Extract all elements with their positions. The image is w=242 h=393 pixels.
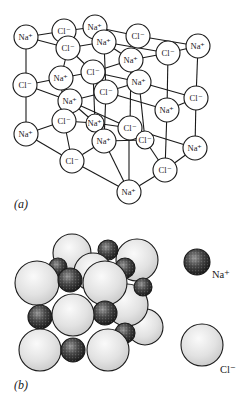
ion-legend: Na⁺Cl⁻ [181, 249, 236, 375]
ion-label: Cl⁻ [86, 67, 99, 77]
cl-ion: Cl⁻ [52, 109, 76, 133]
ion-label: Cl⁻ [18, 80, 31, 90]
ion-label: Na⁺ [188, 143, 203, 153]
ion-label: Cl⁻ [57, 116, 70, 126]
legend-label: Cl⁻ [220, 364, 236, 375]
na-ion: Na⁺ [119, 48, 143, 72]
na-sphere [28, 305, 52, 329]
cl-ion: Cl⁻ [60, 149, 84, 173]
ion-label: Na⁺ [191, 41, 206, 51]
na-ion: Na⁺ [92, 129, 116, 153]
cl-ion: Cl⁻ [126, 24, 150, 48]
ion-label: Cl⁻ [57, 26, 70, 36]
ion-label: Na⁺ [88, 118, 103, 128]
na-ion: Na⁺ [127, 70, 151, 94]
na-ion: Na⁺ [49, 66, 73, 90]
na-ion: Na⁺ [14, 122, 38, 146]
panel-a-label: (a) [14, 197, 28, 211]
ion-label: Cl⁻ [99, 87, 112, 97]
ion-label: Na⁺ [124, 55, 139, 65]
na-sphere [61, 338, 85, 362]
cl-sphere [19, 329, 61, 371]
na-ion: Na⁺ [14, 25, 38, 49]
ion-label: Na⁺ [19, 32, 34, 42]
ion-label: Cl⁻ [161, 48, 174, 58]
legend-item-cl: Cl⁻ [181, 324, 236, 375]
ion-label: Cl⁻ [138, 135, 151, 145]
ion-label: Cl⁻ [189, 93, 202, 103]
ion-label: Na⁺ [132, 77, 147, 87]
cl-sphere [83, 261, 127, 305]
ion-label: Cl⁻ [131, 31, 144, 41]
panel-a-lattice-diagram: Cl⁻Na⁺Cl⁻Na⁺Na⁺Cl⁻Na⁺Cl⁻Na⁺Cl⁻Na⁺Cl⁻Na⁺C… [13, 15, 210, 211]
ion-label: Na⁺ [54, 73, 69, 83]
na-sphere [184, 249, 210, 275]
ion-label: Cl⁻ [65, 156, 78, 166]
cl-ion: Cl⁻ [94, 80, 118, 104]
panel-b-space-filling-model: Na⁺Cl⁻ (b) [14, 234, 236, 392]
na-ion: Na⁺ [183, 136, 207, 160]
na-ion: Na⁺ [92, 30, 116, 54]
na-sphere [134, 278, 152, 296]
ion-label: Na⁺ [122, 187, 137, 197]
cl-ion: Cl⁻ [156, 41, 180, 65]
ion-label: Na⁺ [97, 136, 112, 146]
na-ion: Na⁺ [117, 180, 141, 204]
ion-label: Na⁺ [97, 37, 112, 47]
packed-spheres [15, 234, 163, 371]
ion-label: Cl⁻ [61, 43, 74, 53]
na-sphere [58, 268, 82, 292]
ion-label: Cl⁻ [158, 165, 171, 175]
ion-label: Na⁺ [160, 105, 175, 115]
na-ion: Na⁺ [155, 98, 179, 122]
panel-b-label: (b) [14, 378, 28, 392]
cl-ion: Cl⁻ [13, 73, 37, 97]
legend-label: Na⁺ [212, 269, 230, 280]
cl-ion: Cl⁻ [56, 36, 80, 60]
ion-label: Na⁺ [63, 96, 78, 106]
ion-label: Cl⁻ [123, 123, 136, 133]
na-sphere [93, 301, 117, 325]
cl-sphere [87, 329, 129, 371]
cl-sphere [52, 294, 94, 336]
cl-ion: Cl⁻ [153, 158, 177, 182]
ion-label: Na⁺ [19, 129, 34, 139]
legend-item-na: Na⁺ [184, 249, 230, 280]
nacl-crystal-figure: Cl⁻Na⁺Cl⁻Na⁺Na⁺Cl⁻Na⁺Cl⁻Na⁺Cl⁻Na⁺Cl⁻Na⁺C… [0, 0, 242, 393]
cl-ion: Cl⁻ [184, 86, 208, 110]
cl-ion: Cl⁻ [136, 131, 154, 149]
cl-sphere [15, 261, 59, 305]
na-ion: Na⁺ [186, 34, 210, 58]
cl-sphere [181, 324, 223, 366]
